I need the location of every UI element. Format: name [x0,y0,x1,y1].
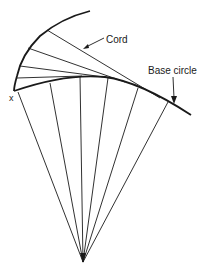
radial-1 [18,92,83,262]
radial-5 [83,88,138,262]
cord-arrow-icon [83,44,89,49]
involute-diagram: Cord Base circle x [0,0,210,279]
base-circle-label: Base circle [148,65,197,76]
radial-lines [18,76,168,262]
chord-1 [47,30,160,98]
start-point-label: x [9,93,14,103]
radial-4 [83,78,108,262]
cord-leader-line [86,38,104,47]
chord-lines [17,30,160,98]
radial-2 [50,83,83,262]
radial-6 [83,102,168,262]
involute-curve [14,11,90,91]
radial-3 [80,76,83,262]
base-circle-leader-line [173,77,174,98]
cord-label: Cord [106,34,128,45]
